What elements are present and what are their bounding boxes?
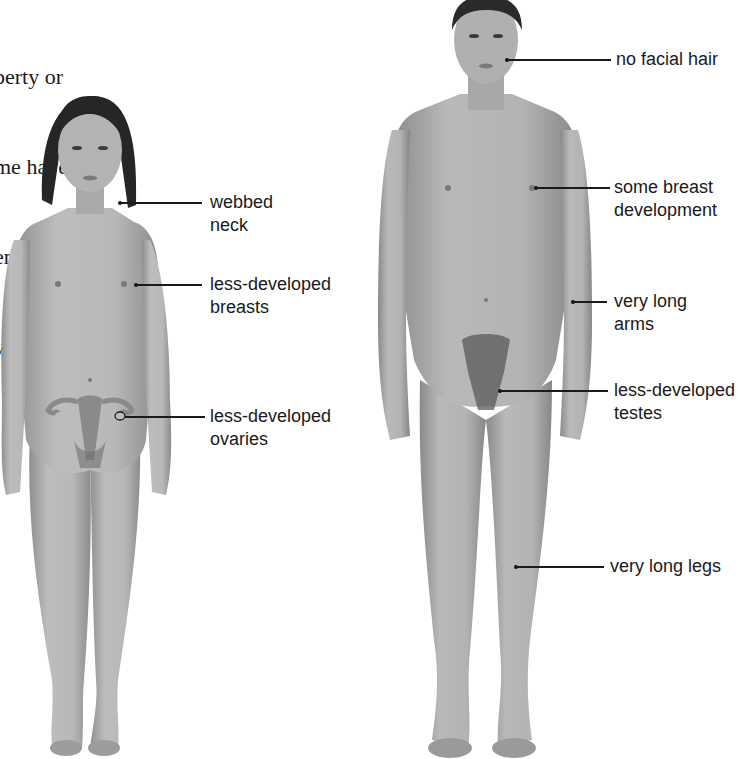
female-nipple-right: [121, 281, 127, 287]
male-foot-left: [428, 738, 472, 758]
label-no-facial-hair: no facial hair: [616, 48, 718, 71]
label-line: breasts: [210, 296, 331, 319]
facial-hair-leader-line: [507, 59, 611, 61]
female-mouth: [83, 176, 97, 181]
male-navel: [484, 298, 488, 302]
label-line: no facial hair: [616, 48, 718, 71]
label-line: ovaries: [210, 428, 331, 451]
ovaries-leader-line: [125, 416, 205, 418]
label-line: less-developed: [210, 405, 331, 428]
male-eye-left: [469, 34, 479, 38]
female-eye-left: [72, 146, 82, 150]
label-line: webbed: [210, 191, 273, 214]
label-very-long-legs: very long legs: [610, 555, 721, 578]
label-webbed-neck: webbed neck: [210, 191, 273, 237]
label-line: testes: [614, 402, 735, 425]
label-line: very long legs: [610, 555, 721, 578]
male-mouth: [479, 64, 493, 69]
female-left-arm: [1, 240, 30, 495]
label-less-developed-breasts: less-developed breasts: [210, 273, 331, 319]
label-very-long-arms: very long arms: [614, 290, 687, 336]
male-left-arm: [378, 130, 410, 440]
label-line: some breast: [614, 176, 717, 199]
label-line: very long: [614, 290, 687, 313]
breast-development-leader-line: [536, 187, 610, 189]
female-figure: [1, 96, 171, 756]
female-foot-right: [88, 740, 120, 756]
female-right-leg: [90, 430, 140, 748]
female-navel: [88, 378, 92, 382]
female-right-arm: [142, 240, 171, 495]
testes-leader-line: [500, 390, 608, 392]
label-line: less-developed: [614, 379, 735, 402]
label-line: less-developed: [210, 273, 331, 296]
male-right-arm: [560, 130, 592, 440]
label-line: neck: [210, 214, 273, 237]
webbed-neck-leader-line: [120, 202, 202, 204]
female-foot-left: [50, 740, 82, 756]
label-line: arms: [614, 313, 687, 336]
female-eye-right: [98, 146, 108, 150]
female-left-leg: [29, 430, 91, 748]
female-nipple-left: [55, 281, 61, 287]
breasts-leader-line: [136, 284, 202, 286]
male-right-leg: [486, 380, 552, 748]
label-less-developed-testes: less-developed testes: [614, 379, 735, 425]
long-arms-leader-line: [573, 301, 607, 303]
male-left-leg: [420, 380, 486, 748]
male-figure: [378, 0, 592, 758]
label-some-breast-development: some breast development: [614, 176, 717, 222]
long-legs-leader-line: [516, 566, 604, 568]
male-foot-right: [492, 738, 536, 758]
male-eye-right: [493, 34, 503, 38]
label-line: development: [614, 199, 717, 222]
label-less-developed-ovaries: less-developed ovaries: [210, 405, 331, 451]
male-nipple-left: [445, 185, 451, 191]
